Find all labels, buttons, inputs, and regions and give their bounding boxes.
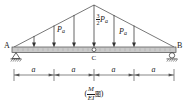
caption-fraction-numerator: M: [87, 86, 95, 94]
pin-support-left: [11, 53, 22, 62]
ordinate-arrow-3: [72, 15, 76, 47]
dimension-label-1: a: [32, 66, 36, 74]
node-label-c: C: [92, 55, 97, 62]
ordinate-arrow-1: [32, 36, 36, 47]
caption-fraction: M EI: [87, 86, 95, 102]
support-label-b: B: [177, 42, 182, 50]
load-label-right: Pa: [119, 28, 127, 36]
figure-caption: ( M EI 图): [0, 86, 188, 102]
structural-diagram-figure: A B C Pa 3 2 Pa Pa a a a a ( M EI 图): [0, 0, 188, 107]
load-label-left: Pa: [57, 26, 65, 34]
caption-close-paren: ): [101, 89, 104, 98]
pin-support-ground-hatch: [11, 59, 22, 62]
hinge-marker-c: [92, 48, 96, 52]
dimension-label-4: a: [152, 66, 156, 74]
dimension-label-3: a: [112, 66, 116, 74]
load-label-right-sub: a: [124, 30, 127, 36]
load-label-peak-sub: a: [105, 18, 108, 24]
roller-support-circle: [169, 53, 174, 58]
ordinate-arrow-2: [52, 26, 56, 48]
load-label-peak: 3 2 Pa: [96, 13, 108, 27]
dimension-line-group: [14, 69, 174, 81]
support-label-a: A: [4, 42, 10, 50]
ordinate-arrow-6: [132, 26, 136, 48]
ordinate-arrow-5: [112, 15, 116, 47]
load-label-left-sub: a: [62, 28, 65, 34]
roller-support-ground-hatch: [167, 59, 178, 62]
roller-support-right: [167, 53, 178, 62]
pin-support-triangle: [12, 53, 20, 59]
dimension-label-2: a: [72, 66, 76, 74]
caption-fraction-denominator: EI: [87, 94, 95, 103]
